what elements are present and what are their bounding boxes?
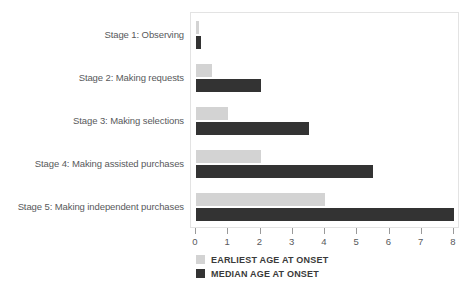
category-label: Stage 2: Making requests	[0, 72, 184, 83]
legend-item: MEDIAN AGE AT ONSET	[196, 267, 456, 280]
bar-median	[196, 79, 261, 92]
x-tick-label: 3	[282, 236, 302, 247]
x-tick-label: 6	[379, 236, 399, 247]
category-axis: Stage 1: ObservingStage 2: Making reques…	[0, 12, 190, 228]
legend-label: EARLIEST AGE AT ONSET	[211, 255, 328, 265]
bar-earliest	[196, 193, 325, 206]
bar-group	[191, 150, 458, 178]
category-label: Stage 3: Making selections	[0, 115, 184, 126]
legend-swatch-icon	[196, 255, 205, 264]
bar-earliest	[196, 21, 199, 34]
bar-group	[191, 107, 458, 135]
bar-group	[191, 193, 458, 221]
x-tick-label: 7	[411, 236, 431, 247]
chart-legend: EARLIEST AGE AT ONSETMEDIAN AGE AT ONSET	[196, 253, 456, 281]
x-tick-mark	[421, 228, 422, 234]
x-axis: 012345678	[190, 228, 459, 254]
bar-median	[196, 122, 309, 135]
x-tick-mark	[260, 228, 261, 234]
category-label: Stage 1: Observing	[0, 29, 184, 40]
x-tick-mark	[324, 228, 325, 234]
x-tick-label: 8	[443, 236, 463, 247]
bar-group	[191, 21, 458, 49]
x-tick-mark	[195, 228, 196, 234]
x-tick-label: 0	[185, 236, 205, 247]
x-tick-label: 4	[314, 236, 334, 247]
plot-area	[190, 12, 459, 228]
legend-label: MEDIAN AGE AT ONSET	[211, 269, 319, 279]
bars-layer	[191, 13, 458, 227]
legend-item: EARLIEST AGE AT ONSET	[196, 253, 456, 266]
x-tick-label: 1	[217, 236, 237, 247]
category-label: Stage 4: Making assisted purchases	[0, 158, 184, 169]
x-tick-mark	[389, 228, 390, 234]
category-label: Stage 5: Making independent purchases	[0, 201, 184, 212]
bar-median	[196, 36, 201, 49]
x-tick-mark	[227, 228, 228, 234]
x-tick-label: 2	[250, 236, 270, 247]
bar-chart: Stage 1: ObservingStage 2: Making reques…	[0, 0, 473, 297]
x-tick-mark	[292, 228, 293, 234]
x-tick-mark	[356, 228, 357, 234]
x-tick-label: 5	[346, 236, 366, 247]
bar-median	[196, 208, 454, 221]
bar-median	[196, 165, 373, 178]
bar-earliest	[196, 64, 212, 77]
legend-swatch-icon	[196, 269, 205, 278]
bar-group	[191, 64, 458, 92]
bar-earliest	[196, 107, 228, 120]
x-tick-mark	[453, 228, 454, 234]
bar-earliest	[196, 150, 261, 163]
